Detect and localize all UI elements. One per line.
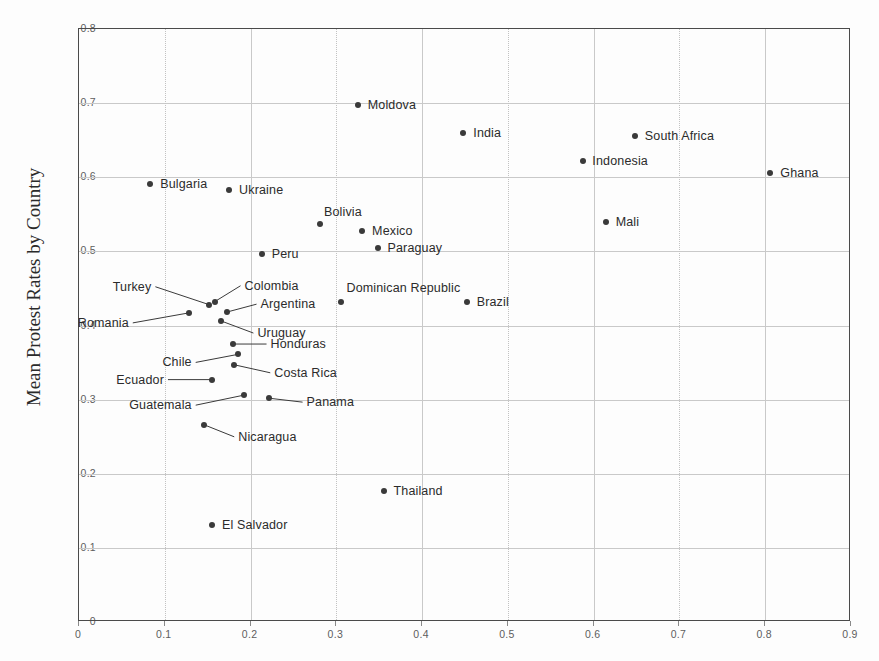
gridline-horizontal — [79, 103, 849, 104]
gridline-horizontal — [79, 251, 849, 252]
gridline-vertical — [422, 29, 423, 620]
data-point-label: Peru — [272, 247, 299, 261]
data-point-label: Honduras — [271, 337, 326, 351]
gridline-vertical — [765, 29, 766, 620]
gridline-vertical — [679, 29, 680, 620]
data-point-label: Ecuador — [116, 373, 164, 387]
data-point-label: Bulgaria — [160, 177, 207, 191]
data-point-label: Bolivia — [324, 205, 362, 219]
data-point-label: Indonesia — [592, 154, 648, 168]
data-point-label: Chile — [162, 355, 191, 369]
gridline-horizontal — [79, 474, 849, 475]
data-point[interactable] — [632, 133, 638, 139]
data-point-label: Brazil — [477, 295, 509, 309]
x-tick-label: 0.3 — [315, 628, 355, 640]
data-point[interactable] — [209, 377, 215, 383]
data-point-label: South Africa — [645, 129, 714, 143]
x-tick-label: 0.8 — [744, 628, 784, 640]
data-point[interactable] — [317, 221, 323, 227]
data-point-label: Ukraine — [239, 183, 283, 197]
x-tickmark — [164, 621, 165, 626]
x-axis-title — [78, 650, 850, 661]
leader-line — [221, 321, 253, 333]
chart-page: Mean Protest Rates by Country 00.10.20.3… — [0, 0, 879, 661]
leader-line — [227, 304, 257, 312]
data-point[interactable] — [259, 251, 265, 257]
data-point-label: Mexico — [372, 224, 413, 238]
leader-line — [204, 425, 234, 437]
x-tick-label: 0 — [58, 628, 98, 640]
data-point-label: Dominican Republic — [346, 281, 460, 295]
data-point-label: Guatemala — [129, 398, 192, 412]
x-tickmark — [593, 621, 594, 626]
x-tickmark — [850, 621, 851, 626]
data-point[interactable] — [231, 362, 237, 368]
data-point-label: Argentina — [261, 297, 316, 311]
data-point-label: Panama — [307, 395, 354, 409]
data-point[interactable] — [464, 299, 470, 305]
x-tickmark — [78, 621, 79, 626]
data-point-label: Mali — [616, 215, 640, 229]
data-point[interactable] — [209, 522, 215, 528]
x-tick-label: 0.5 — [487, 628, 527, 640]
leader-line — [133, 313, 189, 323]
data-point-label: El Salvador — [222, 518, 288, 532]
x-tickmark — [335, 621, 336, 626]
data-point[interactable] — [338, 299, 344, 305]
x-tickmark — [250, 621, 251, 626]
x-tick-label: 0.4 — [401, 628, 441, 640]
data-point-label: India — [473, 126, 501, 140]
leader-line — [155, 287, 209, 305]
x-tickmark — [507, 621, 508, 626]
data-point-label: Colombia — [245, 279, 299, 293]
x-tick-label: 0.7 — [658, 628, 698, 640]
data-point[interactable] — [375, 245, 381, 251]
data-point-label: Thailand — [394, 484, 443, 498]
data-point[interactable] — [224, 309, 230, 315]
x-tickmark — [421, 621, 422, 626]
x-tick-label: 0.1 — [144, 628, 184, 640]
gridline-vertical — [336, 29, 337, 620]
data-point-label: Ghana — [780, 166, 818, 180]
gridline-vertical — [594, 29, 595, 620]
x-tickmark — [678, 621, 679, 626]
x-tick-label: 0.2 — [230, 628, 270, 640]
x-tickmark — [764, 621, 765, 626]
data-point[interactable] — [355, 102, 361, 108]
gridline-horizontal — [79, 548, 849, 549]
leader-line — [215, 286, 241, 302]
leader-line — [234, 365, 270, 373]
data-point-label: Moldova — [368, 98, 416, 112]
data-point-label: Romania — [78, 316, 129, 330]
data-point[interactable] — [266, 395, 272, 401]
data-point[interactable] — [186, 310, 192, 316]
x-tick-label: 0.6 — [573, 628, 613, 640]
gridline-vertical — [508, 29, 509, 620]
data-point[interactable] — [767, 170, 773, 176]
data-point[interactable] — [218, 318, 224, 324]
x-tick-label: 0.9 — [830, 628, 870, 640]
leader-line — [196, 354, 238, 362]
data-point-label: Nicaragua — [238, 430, 296, 444]
plot-area: MoldovaIndiaSouth AfricaIndonesiaGhanaBu… — [78, 28, 850, 621]
data-point[interactable] — [241, 392, 247, 398]
y-axis-title: Mean Protest Rates by Country — [23, 77, 45, 497]
data-point[interactable] — [580, 158, 586, 164]
gridline-vertical — [165, 29, 166, 620]
data-point[interactable] — [235, 351, 241, 357]
data-point[interactable] — [460, 130, 466, 136]
data-point-label: Paraguay — [388, 241, 443, 255]
data-point[interactable] — [147, 181, 153, 187]
gridline-horizontal — [79, 326, 849, 327]
gridline-horizontal — [79, 400, 849, 401]
data-point[interactable] — [381, 488, 387, 494]
data-point-label: Turkey — [113, 280, 152, 294]
data-point[interactable] — [359, 228, 365, 234]
data-point-label: Costa Rica — [274, 366, 337, 380]
data-point[interactable] — [603, 219, 609, 225]
data-point[interactable] — [226, 187, 232, 193]
data-point[interactable] — [201, 422, 207, 428]
data-point[interactable] — [212, 299, 218, 305]
data-point[interactable] — [230, 341, 236, 347]
